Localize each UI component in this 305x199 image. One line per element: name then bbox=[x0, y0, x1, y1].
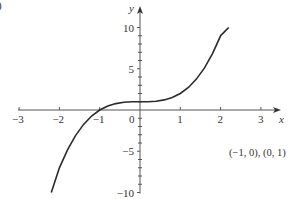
x-tick-label: 2 bbox=[218, 113, 224, 125]
x-axis-label: x bbox=[278, 113, 284, 125]
x-tick-label: 3 bbox=[258, 113, 264, 125]
y-axis-label: y bbox=[128, 2, 134, 14]
x-tick-label: 1 bbox=[177, 113, 183, 125]
y-tick-label: −10 bbox=[117, 187, 135, 199]
panel-label: ) bbox=[0, 0, 2, 12]
x-tick-label: −3 bbox=[12, 113, 24, 125]
chart: ) xy−3−2−10123−10−5510 (−1, 0), (0, 1) bbox=[0, 0, 305, 199]
y-tick-label: −5 bbox=[122, 145, 134, 157]
x-tick-label: −2 bbox=[52, 113, 64, 125]
axes bbox=[18, 6, 281, 194]
annotation-points: (−1, 0), (0, 1) bbox=[229, 147, 286, 159]
x-tick-label: 0 bbox=[129, 113, 135, 125]
y-tick-label: 5 bbox=[129, 63, 135, 75]
tick-labels: xy−3−2−10123−10−5510 bbox=[12, 2, 284, 199]
y-tick-label: 10 bbox=[123, 22, 135, 34]
